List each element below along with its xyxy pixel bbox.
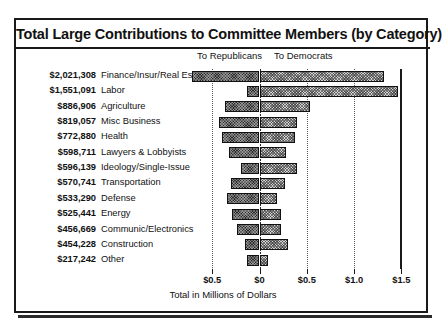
row-amount: $454,228 xyxy=(16,239,96,249)
bar-rows: $2,021,308Finance/Insur/Real Est$1,551,0… xyxy=(16,69,430,269)
bar-segment-republicans xyxy=(219,117,260,128)
row-category-label: Misc Business xyxy=(101,116,160,126)
title-divider xyxy=(16,47,430,49)
bar-row: $598,711Lawyers & Lobbyists xyxy=(16,146,430,161)
chart-screenshot: Total Large Contributions to Committee M… xyxy=(0,0,442,332)
row-category-label: Agriculture xyxy=(101,101,145,111)
bar-segment-democrats xyxy=(260,101,310,112)
row-amount: $596,139 xyxy=(16,162,96,172)
bar-segment-democrats xyxy=(260,163,298,174)
row-category-label: Defense xyxy=(101,193,136,203)
bar-segment-republicans xyxy=(229,147,259,158)
bar-row: $456,669Communic/Electronics xyxy=(16,223,430,238)
row-category-label: Transportation xyxy=(101,177,161,187)
x-tick-label: $1.0 xyxy=(345,275,363,285)
row-amount: $598,711 xyxy=(16,147,96,157)
x-axis: $0.5$0$0.5$1.0$1.5 Total in Millions of … xyxy=(16,269,430,313)
legend-label-democrats: To Democrats xyxy=(274,50,333,61)
bar-segment-republicans xyxy=(231,178,259,189)
bar-segment-republicans xyxy=(227,193,260,204)
x-tick-mark xyxy=(260,269,261,274)
row-amount: $1,551,091 xyxy=(16,85,96,95)
row-category-label: Communic/Electronics xyxy=(101,224,193,234)
row-category-label: Construction xyxy=(101,239,153,249)
bar-segment-democrats xyxy=(260,147,286,158)
bar-row: $772,880Health xyxy=(16,130,430,145)
bar-row: $596,139Ideology/Single-Issue xyxy=(16,161,430,176)
row-category-label: Labor xyxy=(101,85,125,95)
bar-segment-democrats xyxy=(260,132,296,143)
bar-row: $454,228Construction xyxy=(16,238,430,253)
bar-segment-democrats xyxy=(260,239,288,250)
bar-segment-democrats xyxy=(260,193,278,204)
bar-segment-democrats xyxy=(260,209,282,220)
chart-title: Total Large Contributions to Committee M… xyxy=(16,26,430,42)
x-tick-mark xyxy=(307,269,308,274)
x-tick-label: $0.5 xyxy=(298,275,316,285)
row-amount: $2,021,308 xyxy=(16,70,96,80)
row-category-label: Energy xyxy=(101,208,130,218)
bar-row: $570,741Transportation xyxy=(16,176,430,191)
bar-segment-republicans xyxy=(222,132,259,143)
row-amount: $525,441 xyxy=(16,208,96,218)
row-category-label: Ideology/Single-Issue xyxy=(101,162,190,172)
chart-frame: Total Large Contributions to Committee M… xyxy=(14,18,428,313)
row-category-label: Health xyxy=(101,131,128,141)
bar-segment-republicans xyxy=(232,209,260,220)
bar-segment-democrats xyxy=(260,71,385,82)
chart-legend: To Republicans To Democrats xyxy=(16,50,430,66)
bar-segment-democrats xyxy=(260,255,268,266)
row-category-label: Lawyers & Lobbyists xyxy=(101,147,186,157)
row-amount: $217,242 xyxy=(16,254,96,264)
x-tick-mark xyxy=(212,269,213,274)
bar-row: $819,057Misc Business xyxy=(16,115,430,130)
row-amount: $456,669 xyxy=(16,224,96,234)
legend-label-republicans: To Republicans xyxy=(197,50,262,61)
bar-segment-democrats xyxy=(260,117,298,128)
bar-row: $533,290Defense xyxy=(16,192,430,207)
x-tick-label: $0 xyxy=(254,275,264,285)
bar-row: $886,906Agriculture xyxy=(16,100,430,115)
bar-segment-republicans xyxy=(241,163,259,174)
bar-segment-democrats xyxy=(260,178,286,189)
row-category-label: Finance/Insur/Real Est xyxy=(101,70,195,80)
x-tick-label: $1.5 xyxy=(392,275,410,285)
row-amount: $819,057 xyxy=(16,116,96,126)
x-tick-label: $0.5 xyxy=(203,275,221,285)
bar-segment-republicans xyxy=(247,86,259,97)
x-tick-mark xyxy=(354,269,355,274)
plot-area: $2,021,308Finance/Insur/Real Est$1,551,0… xyxy=(16,69,430,269)
bar-row: $2,021,308Finance/Insur/Real Est xyxy=(16,69,430,84)
row-amount: $533,290 xyxy=(16,193,96,203)
row-category-label: Other xyxy=(101,254,124,264)
bar-row: $525,441Energy xyxy=(16,207,430,222)
row-amount: $772,880 xyxy=(16,131,96,141)
bar-segment-republicans xyxy=(237,224,259,235)
x-tick-mark xyxy=(401,269,402,274)
bar-row: $1,551,091Labor xyxy=(16,84,430,99)
row-amount: $886,906 xyxy=(16,101,96,111)
row-amount: $570,741 xyxy=(16,177,96,187)
bar-segment-republicans xyxy=(245,239,260,250)
bar-segment-republicans xyxy=(192,71,260,82)
x-axis-title: Total in Millions of Dollars xyxy=(16,289,430,300)
bar-segment-democrats xyxy=(260,224,281,235)
bar-segment-republicans xyxy=(247,255,260,266)
bar-row: $217,242Other xyxy=(16,253,430,268)
bar-segment-democrats xyxy=(260,86,398,97)
bar-segment-republicans xyxy=(225,101,260,112)
